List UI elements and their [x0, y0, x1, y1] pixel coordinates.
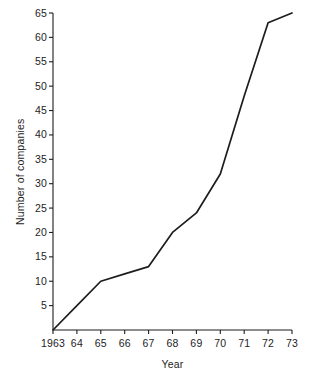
- line-chart: 5101520253035404550556065 19636465666768…: [0, 0, 314, 370]
- y-axis-tick-label: 10: [17, 276, 47, 287]
- y-axis-tick-label: 15: [17, 251, 47, 262]
- y-axis-tick-label: 65: [17, 8, 47, 19]
- y-axis-tick-label: 5: [17, 300, 47, 311]
- y-axis-tick-label: 60: [17, 32, 47, 43]
- y-axis-title: Number of companies: [14, 118, 26, 225]
- x-axis-title: Year: [123, 358, 223, 370]
- y-axis-tick-label: 45: [17, 105, 47, 116]
- y-axis-tick-label: 20: [17, 227, 47, 238]
- y-axis-ticks: [49, 13, 53, 306]
- y-axis-tick-label: 55: [17, 56, 47, 67]
- x-axis-tick-label: 73: [272, 338, 312, 349]
- y-axis-tick-label: 50: [17, 81, 47, 92]
- plot-area: [0, 0, 314, 370]
- data-series-line: [53, 13, 292, 330]
- x-axis-ticks: [53, 330, 292, 334]
